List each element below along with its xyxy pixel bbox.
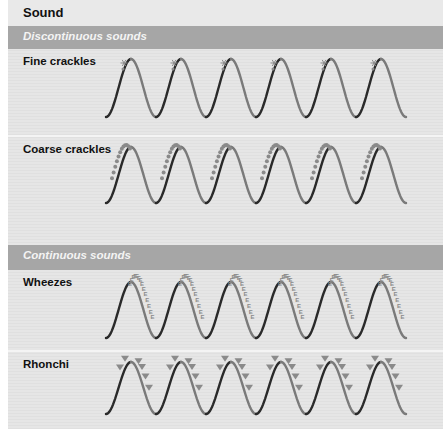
svg-text:E: E [351, 314, 355, 320]
row-wheezes: Wheezes EEEEEEEEEEEEEEEEEEEEEEEEEEEEEEEE… [8, 270, 443, 350]
row-fine-crackles: Fine crackles [8, 49, 443, 135]
table-header: Sound [8, 0, 443, 26]
svg-text:E: E [151, 314, 155, 320]
row-coarse-crackles: Coarse crackles [8, 137, 443, 245]
section-label: Continuous sounds [23, 249, 131, 261]
svg-text:E: E [401, 314, 405, 320]
rhonchi-waveform-icon [8, 352, 443, 429]
section-band-continuous: Continuous sounds [8, 245, 443, 270]
section-label: Discontinuous sounds [23, 30, 147, 42]
svg-text:E: E [251, 314, 255, 320]
section-band-discontinuous: Discontinuous sounds [8, 26, 443, 49]
header-title: Sound [23, 5, 63, 20]
coarse-crackles-waveform-icon [8, 137, 443, 245]
svg-text:E: E [201, 314, 205, 320]
svg-text:E: E [301, 314, 305, 320]
wheezes-waveform-icon: EEEEEEEEEEEEEEEEEEEEEEEEEEEEEEEEEEEEEEEE… [8, 270, 443, 350]
row-rhonchi: Rhonchi [8, 352, 443, 429]
sound-panel: Sound Discontinuous sounds Fine crackles… [8, 0, 443, 429]
fine-crackles-waveform-icon [8, 49, 443, 135]
